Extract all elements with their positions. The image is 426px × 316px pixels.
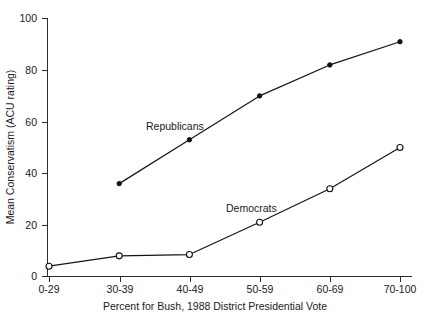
y-tick-label-20: 20 bbox=[25, 219, 37, 231]
x-tick-label-40-49: 40-49 bbox=[177, 283, 204, 295]
data-point-democrats-1 bbox=[116, 253, 122, 259]
data-point-democrats-4 bbox=[327, 186, 333, 192]
y-axis-title: Mean Conservatism (ACU rating) bbox=[4, 70, 16, 225]
data-point-republicans-3 bbox=[328, 63, 332, 67]
data-point-republicans-0 bbox=[117, 181, 121, 185]
x-tick-label-70-100: 70-100 bbox=[384, 283, 417, 295]
x-tick-label-60-69: 60-69 bbox=[317, 283, 344, 295]
data-point-democrats-0 bbox=[46, 263, 52, 269]
series-label-democrats: Democrats bbox=[226, 202, 277, 214]
data-point-republicans-2 bbox=[257, 94, 261, 98]
y-tick-label-100: 100 bbox=[19, 12, 37, 24]
x-axis-ticks bbox=[50, 277, 401, 283]
series-line-republicans bbox=[119, 42, 400, 184]
data-point-republicans-4 bbox=[398, 40, 402, 44]
series-layer bbox=[46, 40, 403, 270]
y-tick-label-60: 60 bbox=[25, 116, 37, 128]
chart-container: 100 80 60 40 20 0 Mean Conservatism (ACU… bbox=[0, 0, 426, 316]
x-tick-label-0-29: 0-29 bbox=[38, 283, 59, 295]
y-tick-label-0: 0 bbox=[31, 270, 37, 282]
y-tick-label-80: 80 bbox=[25, 64, 37, 76]
series-line-democrats bbox=[49, 148, 400, 267]
x-tick-label-50-59: 50-59 bbox=[247, 283, 274, 295]
data-point-democrats-3 bbox=[257, 219, 263, 225]
series-label-republicans: Republicans bbox=[146, 120, 204, 132]
data-point-republicans-1 bbox=[187, 138, 191, 142]
y-tick-label-40: 40 bbox=[25, 167, 37, 179]
y-axis-ticks bbox=[42, 19, 48, 277]
data-point-democrats-5 bbox=[397, 145, 403, 151]
x-axis-title: Percent for Bush, 1988 District Presiden… bbox=[103, 300, 327, 312]
x-tick-label-30-39: 30-39 bbox=[107, 283, 134, 295]
line-chart: 100 80 60 40 20 0 Mean Conservatism (ACU… bbox=[0, 0, 426, 316]
data-point-democrats-2 bbox=[186, 252, 192, 258]
